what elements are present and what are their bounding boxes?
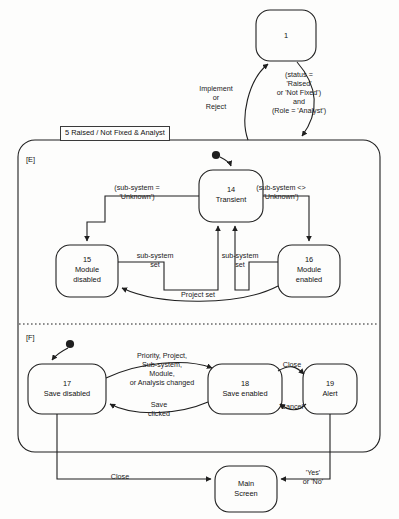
transition-label-18-to-17: Save clicked [134, 400, 184, 418]
transition-label-15-to-14: sub-system set [127, 251, 183, 269]
transition-label-19-to-main: 'Yes' or 'No' [292, 468, 334, 486]
transition-label-14-to-16: (sub-system <> 'Unknown') [238, 183, 324, 201]
state-18-name[interactable]: Save enabled [208, 389, 282, 399]
region-tag-f: [F] [26, 333, 35, 342]
composite-state-title: 5 Raised / Not Fixed & Analyst [60, 126, 170, 141]
state-16-number[interactable]: 16 [278, 255, 340, 265]
transition-label-16-to-14: sub-system set [212, 251, 268, 269]
state-19-number[interactable]: 19 [303, 379, 357, 389]
region-tag-e: [E] [26, 155, 35, 164]
transition-label-implement-or-reject: Implement or Reject [185, 84, 247, 111]
transition-14-to-16 [263, 196, 309, 241]
transition-initial-to-14 [220, 157, 231, 166]
transition-label-17-to-18: Priority, Project, Sub-system, Module, o… [110, 351, 214, 387]
state-main-screen-name[interactable]: Main Screen [215, 479, 277, 498]
state-1-number[interactable]: 1 [256, 31, 316, 41]
initial-state-dot-e [212, 151, 220, 159]
state-15-name[interactable]: Module disabled [56, 265, 118, 284]
initial-state-dot-f [66, 340, 74, 348]
transition-label-14-to-15: (sub-system = 'Unknown') [94, 183, 180, 201]
transition-14-to-15 [87, 196, 199, 241]
transition-label-18-to-19: Close [272, 360, 312, 369]
transition-label-19-to-18: 'Cancel' [270, 402, 314, 411]
state-19-name[interactable]: Alert [303, 389, 357, 399]
transition-17-to-main [57, 414, 211, 479]
state-16-name[interactable]: Module enabled [278, 265, 340, 284]
state-17-number[interactable]: 17 [28, 379, 106, 389]
state-15-number[interactable]: 15 [56, 255, 118, 265]
transition-label-16-to-15: Project set [168, 290, 228, 299]
state-18-number[interactable]: 18 [208, 379, 282, 389]
state-diagram-canvas: 5 Raised / Not Fixed & Analyst [E] [F] 1… [0, 0, 399, 519]
state-17-name[interactable]: Save disabled [28, 389, 106, 399]
transition-label-17-to-main: Close [100, 472, 140, 481]
transition-initial-to-17 [52, 348, 68, 360]
transition-label-status-role-guard: (status = 'Raised' or 'Not Fixed') and (… [252, 70, 346, 115]
